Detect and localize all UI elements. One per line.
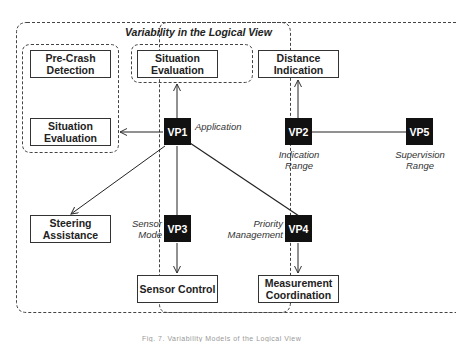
- vp2-label-line1: Indication: [275, 149, 323, 160]
- vp3-label-line2: Mode: [128, 229, 162, 240]
- vp2-label: Indication Range: [275, 149, 323, 171]
- variation-point-vp3: VP3: [164, 215, 191, 242]
- vp4-label: Priority Management: [222, 218, 283, 240]
- component-pre-crash-detection: Pre-Crash Detection: [30, 50, 111, 78]
- variation-point-vp1: VP1: [164, 118, 191, 145]
- component-steering-assistance: Steering Assistance: [30, 215, 111, 243]
- component-measurement-coordination: Measurement Coordination: [258, 275, 339, 303]
- diagram-title: Variability in the Logical View: [125, 26, 272, 38]
- vp3-label: Sensor Mode: [128, 218, 162, 240]
- figure-caption: Fig. 7. Variability Models of the Logica…: [142, 335, 301, 342]
- vp4-label-line1: Priority: [222, 218, 283, 229]
- variation-point-vp5: VP5: [406, 118, 433, 145]
- vp2-label-line2: Range: [275, 160, 323, 171]
- component-distance-indication: Distance Indication: [258, 50, 339, 78]
- vp5-label-line2: Range: [391, 160, 449, 171]
- vp3-label-line1: Sensor: [128, 218, 162, 229]
- component-situation-evaluation-top: Situation Evaluation: [137, 50, 218, 78]
- vp1-label: Application: [195, 121, 241, 132]
- variation-point-vp2: VP2: [285, 118, 312, 145]
- vp5-label-line1: Supervision: [391, 149, 449, 160]
- variation-point-vp4: VP4: [285, 215, 312, 242]
- component-sensor-control: Sensor Control: [137, 275, 218, 303]
- component-situation-evaluation-left: Situation Evaluation: [30, 118, 111, 146]
- vp5-label: Supervision Range: [391, 149, 449, 171]
- edge-vp1-steering: [71, 146, 165, 214]
- vp4-label-line2: Management: [222, 229, 283, 240]
